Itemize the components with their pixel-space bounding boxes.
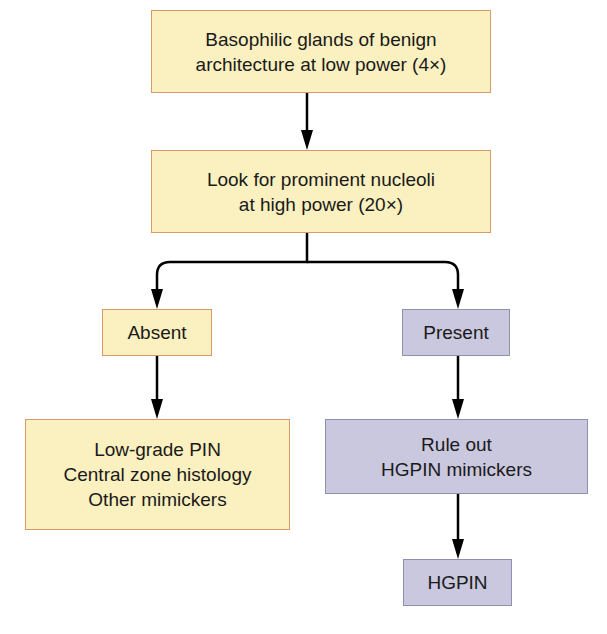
node-absent: Absent [102, 309, 212, 356]
node-check-label: Look for prominent nucleoli at high powe… [207, 167, 435, 217]
node-absent-result-label: Low-grade PIN Central zone histology Oth… [64, 437, 252, 512]
connector-arrows [0, 0, 607, 634]
node-rule-out: Rule out HGPIN mimickers [325, 419, 588, 494]
node-start-label: Basophilic glands of benign architecture… [196, 27, 447, 77]
arrow-check-to-absent [157, 233, 307, 292]
node-absent-result: Low-grade PIN Central zone histology Oth… [25, 419, 290, 530]
node-present: Present [402, 309, 510, 356]
node-present-label: Present [423, 320, 488, 345]
node-hgpin-label: HGPIN [427, 570, 487, 595]
node-start: Basophilic glands of benign architecture… [151, 10, 491, 93]
node-check-nucleoli: Look for prominent nucleoli at high powe… [151, 150, 491, 233]
node-rule-out-label: Rule out HGPIN mimickers [381, 432, 532, 482]
node-absent-label: Absent [127, 320, 186, 345]
node-hgpin: HGPIN [403, 559, 512, 606]
arrow-check-to-present [307, 262, 458, 292]
